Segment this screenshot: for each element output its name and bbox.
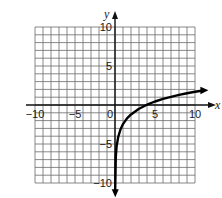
y-tick-label: −10 [93,177,112,189]
curve-arrow-right-icon [200,87,208,95]
graph-canvas: −10−50510−10−5510 x y [0,0,222,198]
x-tick-label: −10 [26,108,45,120]
log-graph: −10−50510−10−5510 x y [0,0,222,198]
y-axis-label: y [103,7,110,21]
y-tick-label: −5 [99,138,112,150]
y-axis-arrow-icon [112,11,118,19]
function-curve [112,87,209,198]
curve-arrow-down-icon [112,189,119,197]
x-tick-label: 5 [152,108,158,120]
x-axis-label: x [214,98,221,112]
x-tick-label: −5 [69,108,82,120]
y-tick-label: 5 [106,60,112,72]
x-tick-label: 10 [189,108,201,120]
y-tick-label: 10 [100,21,112,33]
x-tick-label: 0 [107,108,113,120]
axes [26,11,216,192]
